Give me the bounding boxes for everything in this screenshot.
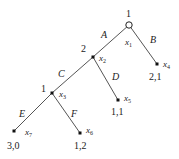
action-label-D: D	[111, 71, 120, 82]
action-label-B: B	[150, 34, 156, 45]
node-name-x7: x7	[24, 127, 32, 138]
payoff-x4: 2,1	[149, 71, 162, 82]
player-label-x2: 2	[81, 43, 86, 54]
payoff-x7: 3,0	[7, 140, 20, 151]
node-name-x4: x4	[162, 59, 170, 70]
node-name-x3: x3	[58, 89, 66, 100]
game-tree-svg: 1 2 1 x1 x2 x3 x4 x5 x6 x7 A B C D E F 2…	[0, 0, 179, 159]
node-x2	[92, 56, 95, 59]
player-label-x3: 1	[41, 83, 46, 94]
node-x4	[156, 63, 159, 66]
node-name-x2: x2	[98, 53, 106, 64]
node-x5	[117, 99, 120, 102]
game-tree-diagram: 1 2 1 x1 x2 x3 x4 x5 x6 x7 A B C D E F 2…	[0, 0, 179, 159]
action-label-F: F	[70, 108, 78, 119]
node-name-x1: x1	[124, 37, 132, 48]
payoff-x6: 1,2	[74, 140, 87, 151]
node-name-x5: x5	[123, 93, 131, 104]
action-label-C: C	[58, 68, 65, 79]
action-label-A: A	[100, 29, 108, 40]
node-x3	[51, 92, 54, 95]
node-x6	[79, 132, 82, 135]
player-label-x1: 1	[126, 8, 131, 19]
payoff-x5: 1,1	[111, 106, 124, 117]
node-name-x6: x6	[85, 125, 93, 136]
node-x7	[13, 130, 16, 133]
action-label-E: E	[18, 108, 25, 119]
root-node-x1	[126, 22, 132, 28]
